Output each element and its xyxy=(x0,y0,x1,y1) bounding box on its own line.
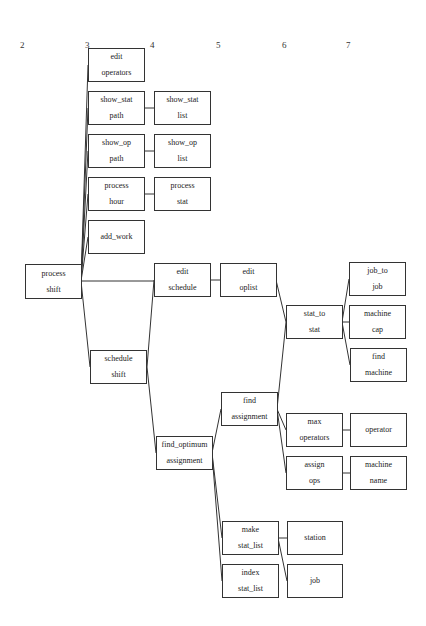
edge-make-stat-list-job xyxy=(278,538,287,581)
edge-stat-to-job-to-job xyxy=(342,279,349,322)
node-label-line2: list xyxy=(178,151,188,167)
node-label-line1: assign xyxy=(305,457,325,473)
node-edit-schedule: edit schedule xyxy=(154,263,211,297)
node-label-line2: assignment xyxy=(232,409,268,425)
column-label-7: 7 xyxy=(346,40,351,50)
node-stat-to-stat: stat_to stat xyxy=(286,305,343,339)
node-label-line1: find xyxy=(372,349,385,365)
node-label-line1: show_stat xyxy=(101,92,133,108)
node-label-line1: edit xyxy=(111,49,123,65)
node-label-line2: oplist xyxy=(240,280,258,296)
node-label-line2: schedule xyxy=(169,280,197,296)
node-find-machine: find machine xyxy=(350,348,407,382)
node-label-line2: operators xyxy=(102,65,132,81)
node-edit-oplist: edit oplist xyxy=(220,263,277,297)
node-label-line1: operator xyxy=(365,422,392,438)
node-edit-operators: edit operators xyxy=(88,48,145,82)
node-index-stat-list: index stat_list xyxy=(222,564,279,598)
node-label-line2: assignment xyxy=(167,453,203,469)
edge-find-optimum-make-stat-list xyxy=(212,453,222,538)
node-label-line2: shift xyxy=(46,282,60,298)
node-find-optimum-assignment: find_optimum assignment xyxy=(156,436,213,470)
node-label-line2: operators xyxy=(300,430,330,446)
node-label-line1: process xyxy=(42,266,66,282)
node-label-line1: stat_to xyxy=(304,306,325,322)
node-process-hour: process hour xyxy=(88,177,145,211)
edge-process-shift-schedule-shift xyxy=(81,281,90,367)
node-label-line2: ops xyxy=(309,473,320,489)
node-label-line1: station xyxy=(304,530,325,546)
edge-edit-oplist-stat-to-stat xyxy=(276,280,286,322)
edge-schedule-shift-find-optimum xyxy=(147,367,156,453)
node-label-line2: job xyxy=(372,279,382,295)
node-label-line1: job_to xyxy=(367,263,387,279)
call-hierarchy-diagram: 2 3 4 5 6 7 process shift edit operators… xyxy=(0,0,426,626)
node-label-line2: path xyxy=(110,108,124,124)
edge-find-optimum-index-stat-list xyxy=(212,453,222,581)
column-label-6: 6 xyxy=(282,40,287,50)
node-label-line2: stat xyxy=(177,194,188,210)
node-label-line1: process xyxy=(171,178,195,194)
column-label-5: 5 xyxy=(216,40,221,50)
node-label-line2: machine xyxy=(365,365,392,381)
node-find-assignment: find assignment xyxy=(221,392,278,426)
node-label-line2: stat_list xyxy=(238,538,263,554)
node-label-line2: list xyxy=(178,108,188,124)
node-label-line2: cap xyxy=(372,322,383,338)
node-show-stat-path: show_stat path xyxy=(88,91,145,125)
edge-schedule-shift-edit-schedule xyxy=(147,280,154,367)
node-label-line1: schedule xyxy=(105,351,133,367)
node-label-line1: find xyxy=(243,393,256,409)
node-assign-ops: assign ops xyxy=(286,456,343,490)
node-label-line2: shift xyxy=(111,367,125,383)
node-show-op-path: show_op path xyxy=(88,134,145,168)
node-label-line2: name xyxy=(370,473,387,489)
node-process-shift: process shift xyxy=(25,264,82,299)
node-label-line1: process xyxy=(105,178,129,194)
node-label-line1: edit xyxy=(177,264,189,280)
node-label-line1: find_optimum xyxy=(162,437,208,453)
node-label-line2: hour xyxy=(109,194,124,210)
node-add-work: add_work xyxy=(88,220,145,254)
node-label-line1: index xyxy=(242,565,260,581)
node-max-operators: max operators xyxy=(286,413,343,447)
node-machine-name: machine name xyxy=(350,456,407,490)
node-schedule-shift: schedule shift xyxy=(90,350,147,384)
node-job-to-job: job_to job xyxy=(349,262,406,296)
node-show-op-list: show_op list xyxy=(154,134,211,168)
node-label-line2: path xyxy=(110,151,124,167)
node-label-line1: machine xyxy=(365,457,392,473)
node-machine-cap: machine cap xyxy=(349,305,406,339)
edge-find-optimum-find-assignment xyxy=(212,409,221,453)
node-label-line1: job xyxy=(310,573,320,589)
edge-find-assignment-stat-to-stat xyxy=(277,322,286,409)
node-label-line1: add_work xyxy=(101,229,133,245)
node-label-line1: make xyxy=(242,522,259,538)
column-label-4: 4 xyxy=(150,40,155,50)
node-label-line1: machine xyxy=(364,306,391,322)
column-label-2: 2 xyxy=(20,40,25,50)
node-label-line1: show_stat xyxy=(167,92,199,108)
node-operator: operator xyxy=(350,413,407,447)
node-label-line1: max xyxy=(308,414,322,430)
node-label-line1: show_op xyxy=(168,135,197,151)
node-show-stat-list: show_stat list xyxy=(154,91,211,125)
node-make-stat-list: make stat_list xyxy=(222,521,279,555)
node-label-line1: show_op xyxy=(102,135,131,151)
node-label-line1: edit xyxy=(243,264,255,280)
node-label-line2: stat_list xyxy=(238,581,263,597)
node-station: station xyxy=(287,521,343,555)
node-process-stat: process stat xyxy=(154,177,211,211)
node-job: job xyxy=(287,564,343,598)
node-label-line2: stat xyxy=(309,322,320,338)
